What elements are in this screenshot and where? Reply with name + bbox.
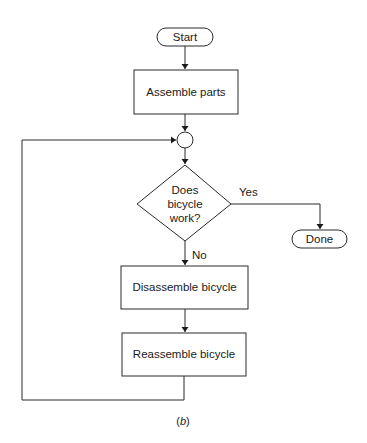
reassemble-bicycle-label: Reassemble bicycle (133, 348, 235, 360)
done-label: Done (306, 233, 334, 245)
done-node: Done (292, 230, 347, 248)
assemble-parts-node: Assemble parts (134, 70, 238, 114)
flowchart: Start Assemble parts Does bicycle work? … (0, 0, 367, 443)
disassemble-bicycle-label: Disassemble bicycle (132, 281, 236, 293)
decision-node: Does bicycle work? (137, 165, 231, 241)
reassemble-bicycle-node: Reassemble bicycle (122, 333, 246, 376)
disassemble-bicycle-node: Disassemble bicycle (121, 266, 248, 309)
decision-line-3: work? (169, 212, 201, 224)
figure-caption: (b) (176, 415, 189, 427)
edge-yes (231, 204, 320, 229)
junction-connector (177, 132, 193, 148)
decision-line-1: Does (172, 184, 199, 196)
yes-label: Yes (239, 186, 258, 198)
assemble-parts-label: Assemble parts (146, 86, 226, 98)
decision-line-2: bicycle (167, 198, 202, 210)
no-label: No (192, 249, 207, 261)
start-node: Start (157, 28, 213, 46)
start-label: Start (173, 31, 198, 43)
